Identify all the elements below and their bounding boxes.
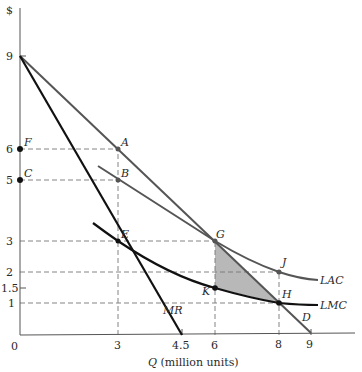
label-G: G xyxy=(216,228,225,241)
point-B xyxy=(116,178,121,183)
point-F xyxy=(17,146,23,152)
label-K: K xyxy=(201,285,211,298)
label-A: A xyxy=(120,136,129,149)
label-J: J xyxy=(280,256,287,269)
y-tick-6: 6 xyxy=(6,143,13,156)
point-C xyxy=(17,177,23,183)
label-E: E xyxy=(120,228,129,241)
x-tick-8: 8 xyxy=(275,338,282,351)
origin-label: 0 xyxy=(11,340,18,353)
y-tick-9: 9 xyxy=(6,50,13,63)
label-MR: MR xyxy=(162,304,183,317)
label-F: F xyxy=(23,136,32,149)
label-LAC: LAC xyxy=(319,274,344,287)
label-LMC: LMC xyxy=(319,299,348,312)
y-tick-2: 2 xyxy=(6,266,13,279)
x-tick-4-5: 4.5 xyxy=(172,339,190,352)
label-D: D xyxy=(301,311,311,324)
y-tick-1: 1 xyxy=(8,297,15,310)
axes xyxy=(20,8,355,335)
monopoly-cost-chart: $ 9 6 5 3 2 1.5 1 0 3 4.5 6 8 9 Q (milli… xyxy=(0,0,362,372)
x-axis-title: Q (million units) xyxy=(148,356,239,369)
point-E xyxy=(116,239,121,244)
x-tick-3: 3 xyxy=(114,339,121,352)
mr-curve xyxy=(20,56,182,335)
point-K xyxy=(212,285,218,291)
point-H xyxy=(276,300,282,306)
y-tick-5: 5 xyxy=(6,174,13,187)
demand-curve-D xyxy=(20,56,311,333)
y-tick-3: 3 xyxy=(6,235,13,248)
point-A xyxy=(116,147,121,152)
label-B: B xyxy=(120,167,129,180)
x-tick-9: 9 xyxy=(306,338,313,351)
label-C: C xyxy=(24,167,33,180)
dashed-guides xyxy=(20,149,279,335)
y-tick-1-5: 1.5 xyxy=(1,282,19,295)
label-H: H xyxy=(281,288,292,301)
x-tick-6: 6 xyxy=(211,339,218,352)
point-J xyxy=(277,270,282,275)
y-axis-label: $ xyxy=(6,4,13,17)
x-axis xyxy=(20,333,355,335)
x-axis-title-q: Q xyxy=(148,356,157,369)
x-axis-title-units: (million units) xyxy=(157,356,239,369)
